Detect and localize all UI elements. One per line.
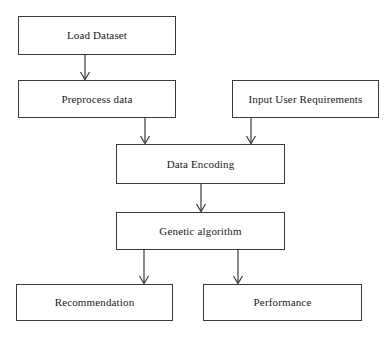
node-data-encoding[interactable]: Data Encoding: [116, 144, 285, 184]
edge-load-dataset-to-preprocess-data: [81, 55, 90, 80]
node-input-user-requirements[interactable]: Input User Requirements: [232, 80, 379, 118]
node-label-genetic-algorithm: Genetic algorithm: [159, 226, 241, 237]
flowchart-canvas: Load Dataset Preprocess data Input User …: [0, 0, 391, 337]
edge-genetic-algorithm-to-performance: [234, 250, 243, 284]
node-genetic-algorithm[interactable]: Genetic algorithm: [116, 212, 285, 250]
node-recommendation[interactable]: Recommendation: [16, 284, 173, 321]
node-label-recommendation: Recommendation: [55, 297, 135, 308]
edge-preprocess-data-to-data-encoding: [141, 118, 150, 144]
node-performance[interactable]: Performance: [203, 284, 362, 321]
node-label-performance: Performance: [254, 297, 312, 308]
node-label-preprocess-data: Preprocess data: [62, 94, 133, 105]
node-preprocess-data[interactable]: Preprocess data: [18, 80, 176, 118]
node-label-input-user-requirements: Input User Requirements: [248, 94, 362, 105]
edge-genetic-algorithm-to-recommendation: [140, 250, 149, 284]
node-label-data-encoding: Data Encoding: [167, 159, 235, 170]
edge-data-encoding-to-genetic-algorithm: [197, 184, 206, 212]
node-load-dataset[interactable]: Load Dataset: [18, 16, 176, 55]
edge-input-user-req-to-data-encoding: [247, 118, 256, 144]
node-label-load-dataset: Load Dataset: [67, 30, 127, 41]
